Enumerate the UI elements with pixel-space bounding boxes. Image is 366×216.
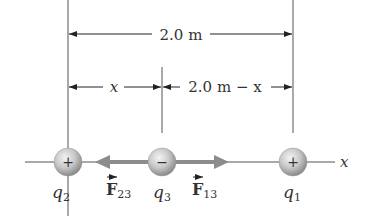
dimension-left: x [69, 78, 161, 96]
dimension-right-label: 2.0 m − x [188, 78, 262, 96]
label-q1: q1 [283, 182, 301, 204]
charge-q2: + [54, 148, 82, 176]
charge-q3-sign: − [156, 154, 168, 170]
force-arrow-f23 [95, 155, 150, 169]
charge-q3: − [148, 148, 176, 176]
dimension-left-label: x [110, 78, 119, 96]
dimension-total: 2.0 m [69, 26, 292, 44]
dimension-total-label: 2.0 m [160, 26, 203, 44]
dimension-right: 2.0 m − x [163, 78, 292, 96]
label-q3: q3 [153, 182, 171, 204]
label-q2: q2 [52, 182, 70, 204]
svg-text:F13: F13 [192, 180, 217, 201]
charge-q2-sign: + [62, 154, 74, 170]
charge-q1-sign: + [287, 154, 299, 170]
charge-diagram: 2.0 m x 2.0 m − x x + − + q2 q3 [0, 0, 366, 216]
force-arrow-f13 [174, 155, 229, 169]
svg-text:F23: F23 [106, 180, 131, 201]
label-f23: F23 [106, 177, 131, 201]
charge-q1: + [279, 148, 307, 176]
label-f13: F13 [192, 177, 217, 201]
x-axis-label: x [340, 153, 349, 171]
